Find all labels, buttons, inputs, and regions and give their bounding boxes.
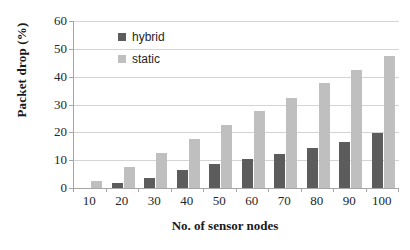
- bar-hybrid-40: [177, 170, 188, 188]
- x-tick-mark-70: [268, 188, 269, 192]
- gridline-0: [74, 188, 399, 189]
- bar-static-60: [254, 111, 265, 188]
- bar-static-90: [351, 70, 362, 188]
- legend-label-hybrid: hybrid: [132, 30, 165, 44]
- legend-label-static: static: [132, 52, 160, 66]
- y-tick-label-20: 20: [7, 125, 67, 138]
- x-tick-mark-20: [106, 188, 107, 192]
- x-tick-mark-10: [73, 188, 74, 192]
- bar-group-10: [74, 21, 107, 188]
- y-tick-label-0: 0: [7, 181, 67, 194]
- bar-group-70: [269, 21, 302, 188]
- x-tick-mark-40: [171, 188, 172, 192]
- bar-hybrid-30: [144, 178, 155, 188]
- y-tick-label-60: 60: [7, 14, 67, 27]
- bar-static-100: [384, 56, 395, 188]
- x-tick-mark-50: [203, 188, 204, 192]
- bar-group-60: [237, 21, 270, 188]
- bar-hybrid-80: [307, 148, 318, 188]
- bar-static-40: [189, 139, 200, 188]
- bar-hybrid-60: [242, 159, 253, 188]
- legend-swatch-hybrid-icon: [118, 33, 126, 41]
- legend-item-static: static: [118, 48, 228, 70]
- x-tick-mark-30: [138, 188, 139, 192]
- bar-static-20: [124, 167, 135, 188]
- bar-static-80: [319, 83, 330, 188]
- bar-chart-figure: Packet drop (%) 0102030405060 1020304050…: [0, 0, 410, 250]
- x-tick-mark-90: [333, 188, 334, 192]
- y-tick-label-10: 10: [7, 153, 67, 166]
- bar-hybrid-100: [372, 133, 383, 188]
- bar-hybrid-50: [209, 164, 220, 188]
- bar-group-100: [367, 21, 400, 188]
- y-tick-label-50: 50: [7, 42, 67, 55]
- bar-static-10: [91, 181, 102, 188]
- y-tick-label-30: 30: [7, 98, 67, 111]
- bar-hybrid-90: [339, 142, 350, 188]
- legend-swatch-static-icon: [118, 55, 126, 63]
- x-axis-title: No. of sensor nodes: [60, 218, 390, 234]
- x-tick-mark-60: [236, 188, 237, 192]
- y-tick-label-40: 40: [7, 70, 67, 83]
- bar-hybrid-20: [112, 183, 123, 188]
- bar-group-90: [334, 21, 367, 188]
- bar-group-80: [302, 21, 335, 188]
- x-tick-label-100: 100: [362, 194, 402, 207]
- bar-static-30: [156, 153, 167, 188]
- bar-static-50: [221, 125, 232, 188]
- bar-hybrid-70: [274, 154, 285, 189]
- x-tick-mark-end: [398, 188, 399, 192]
- x-tick-mark-80: [301, 188, 302, 192]
- chart-legend: hybridstatic: [118, 26, 228, 70]
- x-tick-mark-100: [366, 188, 367, 192]
- bar-static-70: [286, 98, 297, 188]
- legend-item-hybrid: hybrid: [118, 26, 228, 48]
